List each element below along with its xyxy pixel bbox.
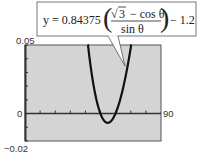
x-tick-label-max: 90 — [163, 108, 174, 119]
equation-denominator: sin θ — [121, 22, 144, 36]
sqrt-symbol: √ — [111, 7, 118, 21]
equation-numerator-rest: − cos θ — [130, 7, 165, 21]
y-tick-label-min: −0.02 — [4, 143, 28, 154]
equation-numerator-root: 3 — [119, 7, 125, 21]
y-tick-label-zero: 0 — [17, 108, 22, 119]
equation-prefix: y = 0.84375 — [43, 13, 101, 27]
y-tick-label-max: 0.05 — [16, 35, 35, 46]
chart: 0.05 0 −0.02 90 y = 0.84375 ( ) √ 3 − co… — [0, 0, 203, 164]
plot-area — [25, 45, 161, 141]
equation-suffix: − 1.2 — [170, 13, 195, 27]
